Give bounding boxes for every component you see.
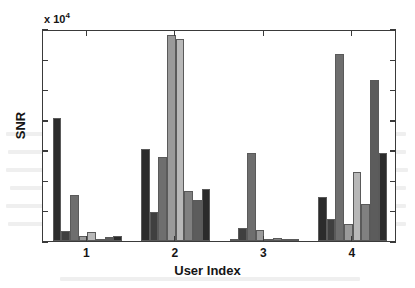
x-axis-tick — [174, 30, 175, 36]
bar — [70, 195, 79, 241]
x-axis-tick-label: 4 — [337, 246, 367, 260]
y-axis-tick — [42, 60, 48, 61]
bar — [264, 239, 273, 241]
y-axis-tick — [42, 29, 48, 30]
bar — [150, 212, 159, 241]
bar — [193, 200, 202, 241]
y-axis-title: SNR — [13, 86, 28, 166]
bar — [230, 239, 239, 241]
bar — [318, 197, 327, 241]
y-axis-tick — [42, 211, 48, 212]
x-axis-tick — [351, 30, 352, 36]
y-axis-tick — [390, 181, 396, 182]
y-axis-tick — [390, 90, 396, 91]
y-axis-tick — [390, 60, 396, 61]
bar — [105, 237, 114, 241]
bar — [96, 239, 105, 241]
y-axis-multiplier: x 104 — [44, 11, 70, 25]
bar — [167, 35, 176, 241]
figure-canvas: x 104 01234567 1234 User Index SNR — [0, 0, 415, 288]
y-axis-multiplier-base: x 10 — [44, 13, 65, 25]
y-axis-tick — [42, 90, 48, 91]
bar — [335, 54, 344, 241]
bar — [61, 231, 70, 241]
y-axis-tick — [42, 181, 48, 182]
bar — [53, 118, 62, 241]
x-axis-title: User Index — [0, 263, 415, 278]
bar — [273, 238, 282, 241]
y-axis-tick — [390, 29, 396, 30]
bar — [353, 172, 362, 241]
bar — [87, 232, 96, 241]
x-axis-tick-label: 3 — [248, 246, 278, 260]
bar — [361, 204, 370, 241]
plot-frame — [42, 30, 396, 242]
bar — [247, 153, 256, 241]
x-axis-tick-label: 1 — [71, 246, 101, 260]
y-axis-tick — [42, 120, 48, 121]
bar — [202, 189, 211, 241]
y-axis-tick — [390, 150, 396, 151]
bar — [327, 219, 336, 241]
y-axis-tick — [390, 211, 396, 212]
x-axis-tick — [86, 30, 87, 36]
x-axis-tick — [263, 236, 264, 242]
y-axis-tick — [390, 241, 396, 242]
bar — [290, 239, 299, 241]
bar — [158, 157, 167, 241]
y-axis-multiplier-exponent: 4 — [65, 11, 69, 20]
x-axis-tick-label: 2 — [160, 246, 190, 260]
bar — [141, 149, 150, 241]
bar — [370, 80, 379, 241]
bar — [282, 239, 291, 241]
x-axis-tick — [174, 236, 175, 242]
bar — [184, 191, 193, 241]
bar — [176, 39, 185, 241]
bar — [113, 236, 122, 241]
y-axis-tick — [390, 120, 396, 121]
bar — [379, 153, 388, 241]
x-axis-tick — [263, 30, 264, 36]
bar — [238, 228, 247, 241]
y-axis-tick — [42, 241, 48, 242]
x-axis-tick — [86, 236, 87, 242]
x-axis-tick — [351, 236, 352, 242]
y-axis-tick — [42, 150, 48, 151]
plot-area — [43, 31, 395, 241]
